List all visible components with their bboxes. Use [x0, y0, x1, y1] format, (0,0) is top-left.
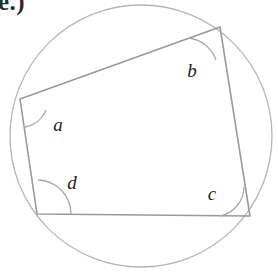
geometry-figure	[0, 0, 278, 273]
angle-arc-d	[38, 180, 71, 214]
angle-label-b: b	[187, 61, 197, 80]
angle-arc-b	[189, 38, 216, 60]
problem-number-label: e.)	[0, 0, 25, 14]
angle-arc-c	[220, 187, 244, 216]
angle-arc-a	[25, 110, 46, 127]
angle-label-a: a	[53, 115, 63, 134]
angle-label-d: d	[67, 173, 77, 192]
figure-canvas: e.) a b c d	[0, 0, 278, 273]
angle-label-c: c	[208, 184, 216, 203]
circumscribed-circle	[10, 5, 272, 267]
